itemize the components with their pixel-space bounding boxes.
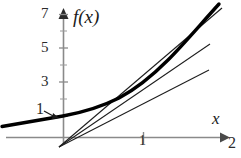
y-axis-arrow-icon [59, 8, 69, 19]
plot-canvas [0, 0, 241, 158]
y-axis-function-label: f(x) [73, 7, 99, 26]
tick-marks-group [59, 15, 144, 145]
x-tick-label-2: 2 [228, 135, 236, 151]
x-tick-label-1: 1 [139, 134, 146, 148]
function-curve-fx [2, 4, 219, 127]
y-tick-label-7: 7 [41, 6, 49, 21]
y-tick-label-3: 3 [41, 74, 49, 89]
x-axis-variable-label: x [212, 110, 220, 127]
y-tick-label-1: 1 [36, 101, 44, 117]
secant-line-medium [59, 44, 210, 147]
secant-line-shallow [59, 70, 209, 147]
function-graph-figure: f(x) x 7 5 3 1 1 2 [0, 0, 241, 158]
y-tick-label-5: 5 [41, 40, 49, 55]
